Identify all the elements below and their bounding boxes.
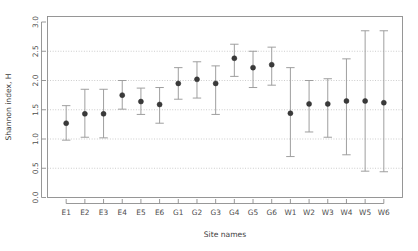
x-tick-label: E6 [155, 208, 165, 217]
x-tick-label: W5 [359, 208, 371, 217]
data-point-group [268, 47, 276, 85]
y-tick-label: 1.5 [31, 104, 40, 116]
mean-marker [157, 102, 162, 107]
x-tick-label: E2 [80, 208, 89, 217]
data-point-group [137, 88, 145, 114]
data-point-group [62, 106, 70, 141]
x-axis-title: Site names [204, 230, 247, 239]
x-tick-label: E3 [99, 208, 109, 217]
x-axis-ticks: E1E2E3E4E5E6G1G2G3G4G5G6W1W2W3W4W5W6 [61, 199, 390, 217]
y-tick-label: 0.0 [31, 191, 40, 203]
y-axis-title: Shannon index, H [4, 73, 13, 140]
mean-marker [194, 77, 199, 82]
mean-marker [138, 99, 143, 104]
grid-layer [48, 51, 403, 168]
mean-marker [325, 101, 330, 106]
data-point-group [211, 66, 219, 115]
y-axis-ticks: 0.00.51.01.52.02.53.0 [31, 16, 47, 204]
y-tick-label: 1.0 [31, 133, 40, 145]
data-point-group [305, 81, 313, 132]
y-tick-label: 3.0 [31, 16, 40, 28]
x-tick-label: W2 [303, 208, 315, 217]
mean-marker [64, 121, 69, 126]
data-point-group [361, 31, 369, 171]
mean-marker [381, 100, 386, 105]
x-tick-label: W4 [340, 208, 352, 217]
mean-marker [176, 81, 181, 86]
data-point-group [230, 44, 238, 76]
mean-marker [344, 98, 349, 103]
data-point-group [81, 89, 89, 137]
x-tick-label: G6 [266, 208, 277, 217]
mean-marker [251, 65, 256, 70]
data-point-group [118, 81, 126, 110]
data-point-group [380, 31, 388, 172]
data-points-layer [62, 31, 388, 172]
data-point-group [286, 68, 294, 157]
plot-frame [48, 17, 403, 198]
x-tick-label: W6 [378, 208, 390, 217]
x-tick-label: E4 [118, 208, 128, 217]
y-tick-label: 2.0 [31, 74, 40, 86]
y-tick-label: 2.5 [31, 45, 40, 57]
mean-marker [101, 111, 106, 116]
mean-marker [232, 56, 237, 61]
x-tick-label: W3 [322, 208, 334, 217]
data-point-group [99, 89, 107, 138]
x-tick-label: G3 [210, 208, 221, 217]
data-point-group [155, 88, 163, 124]
data-point-group [174, 68, 182, 100]
mean-marker [120, 93, 125, 98]
y-tick-label: 0.5 [31, 162, 40, 174]
x-tick-label: G2 [192, 208, 202, 217]
mean-marker [82, 111, 87, 116]
data-point-group [342, 59, 350, 155]
x-tick-label: G1 [173, 208, 184, 217]
x-tick-label: W1 [284, 208, 296, 217]
data-point-group [249, 51, 257, 87]
mean-marker [363, 98, 368, 103]
mean-marker [307, 101, 312, 106]
x-tick-label: E5 [136, 208, 146, 217]
data-point-group [193, 62, 201, 98]
chart-canvas: 0.00.51.01.52.02.53.0 E1E2E3E4E5E6G1G2G3… [0, 0, 418, 251]
x-tick-label: G4 [229, 208, 240, 217]
x-tick-label: G5 [248, 208, 259, 217]
mean-marker [288, 111, 293, 116]
error-bar-chart: 0.00.51.01.52.02.53.0 E1E2E3E4E5E6G1G2G3… [0, 0, 418, 251]
mean-marker [213, 81, 218, 86]
data-point-group [324, 79, 332, 137]
mean-marker [269, 62, 274, 67]
x-tick-label: E1 [61, 208, 71, 217]
